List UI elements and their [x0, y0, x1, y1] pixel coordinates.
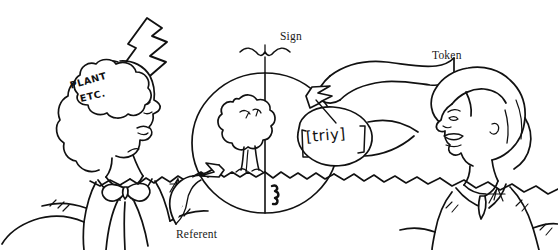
phonetic-transcription-text: [triy] [305, 125, 346, 146]
right-person-figure [400, 67, 558, 250]
sign-brace [240, 45, 290, 55]
label-sign: Sign [280, 30, 302, 42]
semiotic-diagram [0, 0, 558, 250]
label-token: Token [432, 49, 462, 61]
token-ribbon [306, 58, 454, 123]
label-referent: Referent [176, 228, 217, 240]
